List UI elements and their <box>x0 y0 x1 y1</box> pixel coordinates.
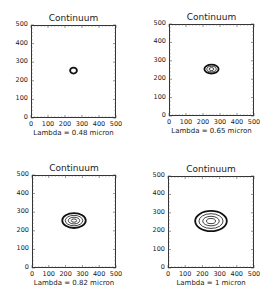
x-tick-label: 500 <box>244 270 264 278</box>
contour-line <box>203 216 220 226</box>
y-tick-label: 100 <box>145 245 165 253</box>
contour-plot <box>0 0 275 308</box>
y-tick-label: 400 <box>145 189 165 197</box>
y-tick-label: 200 <box>145 226 165 234</box>
contour-line <box>207 219 216 224</box>
x-axis-label: Lambda = 1 micron <box>156 279 266 287</box>
y-tick-label: 500 <box>145 171 165 179</box>
y-tick-label: 300 <box>145 208 165 216</box>
